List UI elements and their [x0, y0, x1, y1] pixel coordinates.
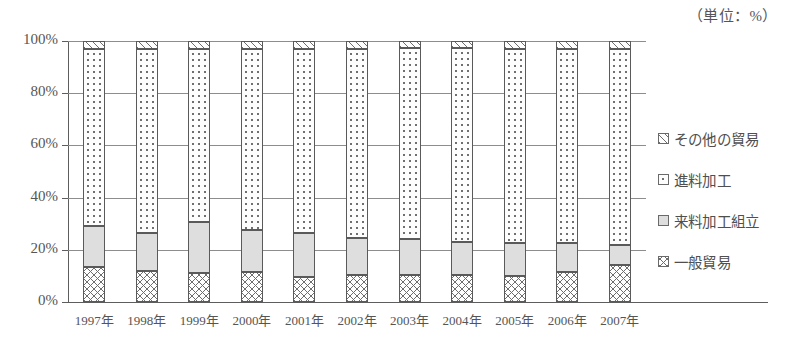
- bar-segment: [241, 41, 263, 49]
- bar-segment: [346, 275, 368, 302]
- y-axis-tick: [62, 302, 68, 303]
- bar-column: [609, 41, 631, 302]
- legend-label: 進料加工: [674, 169, 731, 190]
- bar-segment: [293, 277, 315, 302]
- bar-segment: [136, 233, 158, 271]
- legend-item: 進料加工: [658, 169, 790, 190]
- chart-legend: その他の貿易進料加工来料加工組立一般貿易: [658, 128, 790, 292]
- legend-swatch-icon: [658, 133, 669, 144]
- bar-segment: [504, 41, 526, 49]
- bar-segment: [451, 48, 473, 242]
- x-axis-line: [68, 302, 768, 303]
- bar-segment: [609, 41, 631, 49]
- bar-column: [136, 41, 158, 302]
- bar-segment: [188, 222, 210, 273]
- bar-segment: [83, 41, 105, 49]
- bar-column: [293, 41, 315, 302]
- bar-segment: [451, 242, 473, 275]
- legend-item: 来料加工組立: [658, 210, 790, 231]
- bar-segment: [346, 49, 368, 238]
- bar-segment: [136, 41, 158, 49]
- x-axis-label: 2007年: [589, 310, 651, 329]
- legend-label: 来料加工組立: [674, 210, 759, 231]
- bar-segment: [136, 49, 158, 233]
- y-axis-label: 80%: [0, 83, 58, 100]
- bar-column: [504, 41, 526, 302]
- legend-swatch-icon: [658, 215, 669, 226]
- y-axis-label: 20%: [0, 240, 58, 257]
- bar-segment: [83, 226, 105, 266]
- bar-segment: [609, 265, 631, 302]
- plot-area: [68, 41, 646, 302]
- legend-item: 一般貿易: [658, 251, 790, 272]
- bar-segment: [504, 49, 526, 243]
- bar-segment: [556, 41, 578, 49]
- bar-segment: [293, 49, 315, 233]
- bar-segment: [399, 41, 421, 48]
- bar-segment: [188, 273, 210, 302]
- bar-segment: [399, 239, 421, 274]
- y-axis-label: 60%: [0, 135, 58, 152]
- bar-segment: [83, 49, 105, 226]
- bar-segment: [346, 41, 368, 49]
- bar-segment: [556, 243, 578, 272]
- bar-column: [188, 41, 210, 302]
- y-axis-label: 100%: [0, 31, 58, 48]
- bar-segment: [451, 41, 473, 48]
- bar-column: [346, 41, 368, 302]
- bar-segment: [241, 230, 263, 272]
- bar-column: [556, 41, 578, 302]
- bar-segment: [609, 245, 631, 266]
- y-axis-label: 40%: [0, 188, 58, 205]
- bar-segment: [451, 275, 473, 302]
- bar-segment: [399, 48, 421, 240]
- legend-swatch-icon: [658, 174, 669, 185]
- bar-segment: [188, 49, 210, 223]
- chart-canvas: （単位：%） 0%20%40%60%80%100% 1997年1998年1999…: [0, 0, 792, 344]
- unit-note: （単位：%）: [688, 4, 779, 25]
- bar-column: [399, 41, 421, 302]
- bar-segment: [241, 272, 263, 302]
- bar-segment: [609, 49, 631, 245]
- bar-column: [241, 41, 263, 302]
- y-axis-label: 0%: [0, 292, 58, 309]
- bar-segment: [241, 49, 263, 230]
- bar-segment: [83, 267, 105, 302]
- bar-segment: [556, 49, 578, 243]
- bar-segment: [504, 276, 526, 302]
- bar-segment: [556, 272, 578, 302]
- bar-segment: [136, 271, 158, 302]
- bar-segment: [504, 243, 526, 276]
- bar-segment: [188, 41, 210, 49]
- bar-segment: [346, 238, 368, 275]
- legend-item: その他の貿易: [658, 128, 790, 149]
- bar-column: [451, 41, 473, 302]
- legend-label: その他の貿易: [674, 128, 759, 149]
- legend-swatch-icon: [658, 256, 669, 267]
- bar-segment: [293, 233, 315, 277]
- bar-segment: [399, 275, 421, 302]
- bar-column: [83, 41, 105, 302]
- bar-segment: [293, 41, 315, 49]
- legend-label: 一般貿易: [674, 251, 731, 272]
